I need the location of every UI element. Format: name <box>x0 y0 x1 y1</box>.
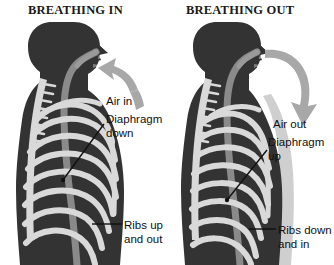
leader-dot-diaphragm-out <box>225 198 229 202</box>
label-air-out: Air out <box>273 118 306 132</box>
label-ribs-down-line2: and in <box>278 238 332 252</box>
label-diaphragm-down-line1: Diaphragm <box>106 113 162 127</box>
leader-dot-diaphragm-in <box>61 178 65 182</box>
panel-breathing-out: BREATHING OUT <box>167 0 334 265</box>
label-diaphragm-up-line1: Diaphragm <box>268 136 324 150</box>
panel-breathing-in: BREATHING IN <box>0 0 167 265</box>
label-diaphragm-down: Diaphragm down <box>106 113 162 140</box>
label-diaphragm-down-line2: down <box>106 127 162 141</box>
label-ribs-up-and-out: Ribs up and out <box>124 219 163 246</box>
label-diaphragm-up-line2: up <box>268 150 324 164</box>
label-ribs-down-and-in: Ribs down and in <box>278 224 332 251</box>
label-ribs-up-line2: and out <box>124 233 163 247</box>
label-diaphragm-up: Diaphragm up <box>268 136 324 163</box>
label-ribs-down-line1: Ribs down <box>278 224 332 238</box>
breathing-diagram: BREATHING IN <box>0 0 334 265</box>
label-air-in: Air in <box>106 95 132 109</box>
label-ribs-up-line1: Ribs up <box>124 219 163 233</box>
